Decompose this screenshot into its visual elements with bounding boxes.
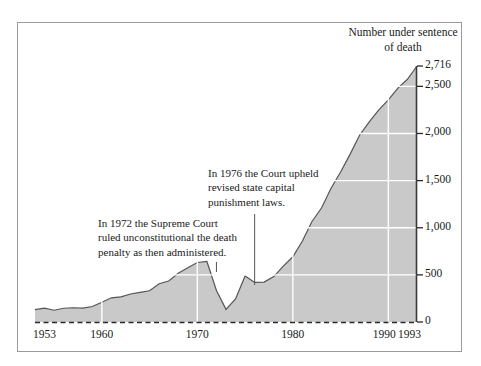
y-axis-label: 2,000 xyxy=(425,125,451,137)
x-axis-label: 1980 xyxy=(281,328,304,340)
x-axis-label: 1970 xyxy=(186,328,209,340)
annotation-1976: In 1976 the Court upheld revised state c… xyxy=(208,166,338,209)
x-axis-label: 1953 xyxy=(33,328,56,340)
x-axis-label: 1990 xyxy=(373,328,396,340)
y-axis-label: 2,716 xyxy=(425,58,451,70)
chart-page: Number under sentence of death 05001,000… xyxy=(0,0,481,366)
annotation-1972: In 1972 the Supreme Court ruled unconsti… xyxy=(98,216,238,259)
x-axis-label: 1993 xyxy=(398,328,421,340)
chart-title: Number under sentence of death xyxy=(343,25,463,54)
y-axis-label: 1,000 xyxy=(425,220,451,232)
y-tick-marks xyxy=(417,66,423,322)
y-axis-label: 0 xyxy=(425,314,431,326)
y-axis-label: 1,500 xyxy=(425,173,451,185)
y-axis-label: 2,500 xyxy=(425,78,451,90)
y-axis-label: 500 xyxy=(425,267,442,279)
x-axis-label: 1960 xyxy=(90,328,113,340)
